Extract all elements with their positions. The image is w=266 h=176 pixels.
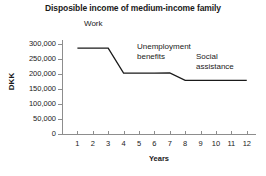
x-tick-label: 12 (240, 140, 254, 148)
chart-annotation-label: Unemployment benefits (137, 42, 191, 61)
x-tick-label: 11 (224, 140, 238, 148)
chart-annotation-label: Social assistance (196, 52, 234, 71)
x-tick-label: 3 (101, 140, 115, 148)
y-tick-label: 0 (4, 130, 56, 138)
y-axis-title: DKK (7, 62, 16, 102)
x-tick-label: 9 (194, 140, 208, 148)
x-tick-label: 4 (117, 140, 131, 148)
x-tick-label: 10 (209, 140, 223, 148)
chart-title: Disposible income of medium-income famil… (0, 3, 266, 13)
x-tick-label: 7 (163, 140, 177, 148)
x-tick-label: 5 (132, 140, 146, 148)
y-tick-label: 300,000 (4, 40, 56, 48)
chart-container: Disposible income of medium-income famil… (0, 0, 266, 176)
x-tick-label: 1 (70, 140, 84, 148)
x-tick-label: 2 (86, 140, 100, 148)
x-tick-label: 8 (178, 140, 192, 148)
y-tick-label: 50,000 (4, 115, 56, 123)
chart-annotation-label: Work (84, 19, 103, 29)
x-tick-label: 6 (147, 140, 161, 148)
x-axis-title: Years (62, 154, 256, 163)
